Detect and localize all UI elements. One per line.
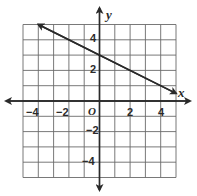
y-tick-label: −4 (82, 155, 95, 167)
data-line (38, 25, 176, 94)
x-tick-label: −4 (26, 106, 39, 118)
y-tick-label: 2 (90, 63, 96, 75)
y-tick-label: −2 (86, 124, 99, 136)
y-tick-label: 4 (90, 32, 97, 44)
x-tick-label: 4 (158, 106, 165, 118)
x-tick-label: −2 (56, 106, 69, 118)
x-axis-label: x (177, 85, 185, 100)
origin-label: O (88, 105, 96, 117)
coordinate-plane: y x O −4 −2 2 4 4 2 −2 −4 (0, 0, 197, 196)
x-tick-label: 2 (127, 106, 133, 118)
y-axis-label: y (104, 7, 112, 22)
